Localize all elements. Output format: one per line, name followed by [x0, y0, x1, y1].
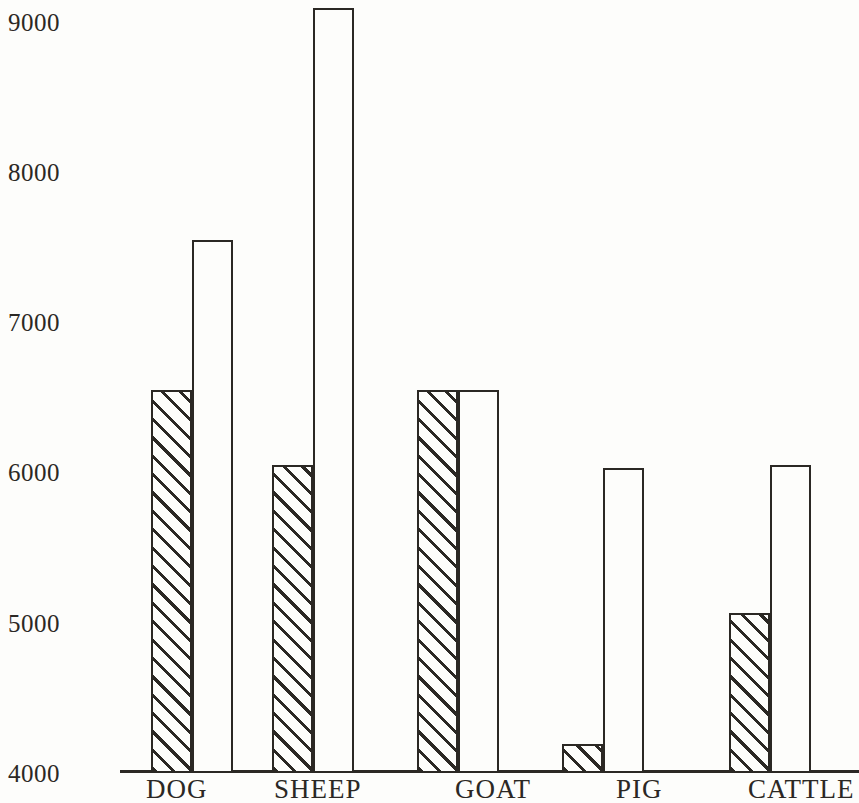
- bar-goat-white: [458, 390, 499, 773]
- y-tick-label-8000: 8000: [8, 160, 118, 185]
- bar-sheep-white: [313, 8, 354, 773]
- x-tick-label-cattle: CATTLE: [748, 775, 855, 803]
- x-tick-label-sheep: SHEEP: [274, 775, 362, 803]
- x-tick-label-goat: GOAT: [455, 775, 531, 803]
- bar-sheep-hatched: [272, 465, 313, 773]
- bar-chart-figure: 9000 8000 7000 6000 5000 4000 DOG SHEEP …: [0, 0, 859, 803]
- bar-pig-hatched: [562, 744, 603, 773]
- x-tick-label-pig: PIG: [616, 775, 663, 803]
- bar-dog-white: [192, 240, 233, 773]
- bar-pig-white: [603, 468, 644, 773]
- plot-area: [120, 0, 859, 773]
- bar-cattle-hatched: [729, 613, 770, 773]
- bar-dog-hatched: [151, 390, 192, 773]
- bar-goat-hatched: [417, 390, 458, 773]
- y-tick-label-7000: 7000: [8, 310, 118, 335]
- y-tick-label-5000: 5000: [8, 611, 118, 636]
- y-tick-label-9000: 9000: [8, 10, 118, 35]
- y-tick-label-6000: 6000: [8, 460, 118, 485]
- y-tick-label-4000: 4000: [8, 761, 118, 786]
- x-tick-label-dog: DOG: [146, 775, 208, 803]
- bar-cattle-white: [770, 465, 811, 773]
